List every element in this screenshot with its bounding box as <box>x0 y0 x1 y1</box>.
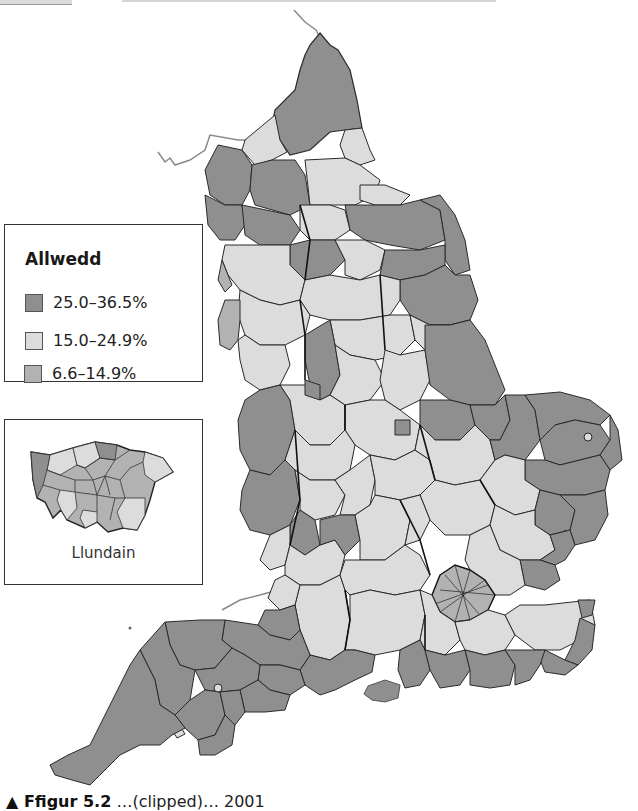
region-hertfordshire <box>420 480 495 535</box>
inset-label: Llundain <box>5 544 202 562</box>
region-teesside <box>360 185 410 205</box>
region-sussex-mid <box>425 650 470 688</box>
legend-label-low: 6.6–14.9% <box>52 364 136 383</box>
region-wealden <box>465 650 515 688</box>
legend-swatch-low <box>24 365 42 383</box>
region-lincolnshire-east <box>425 320 505 405</box>
legend-label-mid: 15.0–24.9% <box>53 331 147 350</box>
london-inset-map <box>5 420 201 540</box>
region-richmondshire <box>300 205 350 240</box>
region-exeter <box>214 684 222 692</box>
region-rutland <box>395 420 410 435</box>
legend-item-mid: 15.0–24.9% <box>25 331 147 350</box>
legend-swatch-high <box>25 294 43 312</box>
scotland-border-line <box>294 10 320 38</box>
legend-label-high: 25.0–36.5% <box>53 293 147 312</box>
region-cumbria-west <box>205 145 252 205</box>
region-maldon <box>520 560 560 590</box>
figure-caption: ▲ Ffigur 5.2 …(clipped)… 2001 <box>6 792 265 811</box>
caption-prefix: ▲ Ffigur 5.2 <box>6 792 111 811</box>
legend-item-high: 25.0–36.5% <box>25 293 147 312</box>
london-inset: Llundain <box>4 419 203 585</box>
region-dorset <box>300 650 375 695</box>
region-isle-of-wight <box>364 680 400 702</box>
region-norwich-dot <box>584 433 592 441</box>
region-merseyside <box>218 300 240 350</box>
lundy-dot <box>129 627 132 630</box>
legend-swatch-mid <box>25 332 43 350</box>
legend-title: Allwedd <box>25 249 101 269</box>
map-legend: Allwedd 25.0–36.5% 15.0–24.9% <box>4 224 203 382</box>
caption-text: …(clipped)… 2001 <box>116 792 264 811</box>
region-west-yorkshire <box>300 275 400 320</box>
legend-item-low-row: 6.6–14.9% <box>24 364 136 383</box>
